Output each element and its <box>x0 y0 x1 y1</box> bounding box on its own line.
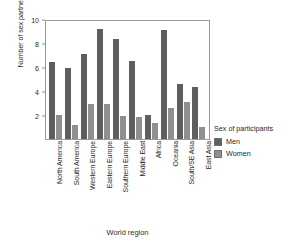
bar-women <box>72 125 78 139</box>
bar-group <box>113 21 126 139</box>
bar-women <box>104 104 110 139</box>
x-tick-label: Oceania <box>172 141 179 166</box>
bar-group <box>129 21 142 139</box>
bar-women <box>152 123 158 139</box>
bar-men <box>65 68 71 139</box>
bar-men <box>192 87 198 139</box>
y-tick-label: 6 <box>35 65 39 72</box>
bar-women <box>184 102 190 139</box>
bar-women <box>199 127 205 139</box>
bar-group <box>97 21 110 139</box>
y-tick-label: 4 <box>35 89 39 96</box>
x-axis-title: World region <box>45 228 210 237</box>
bar-men <box>145 115 151 139</box>
bar-chart: Number of sex partners desired 246810 No… <box>0 0 300 252</box>
x-tick-label: Western Europe <box>89 141 96 190</box>
x-tick-label: Middle East <box>139 141 146 176</box>
legend-item-men: Men <box>214 137 298 146</box>
legend-label: Women <box>226 149 251 158</box>
bar-group <box>161 21 174 139</box>
y-tick-label: 10 <box>31 17 39 24</box>
bar-group <box>177 21 190 139</box>
bar-men <box>129 61 135 139</box>
bar-women <box>168 108 174 139</box>
legend-title: Sex of participants <box>214 124 298 133</box>
bar-group <box>49 21 62 139</box>
bar-group <box>65 21 78 139</box>
bar-women <box>88 104 94 139</box>
legend-swatch <box>214 150 222 158</box>
legend-entries: MenWomen <box>214 137 298 158</box>
bars-container <box>46 21 209 139</box>
bar-men <box>161 30 167 139</box>
legend: Sex of participants MenWomen <box>214 124 298 161</box>
x-tick-label: South/SE Asia <box>188 141 195 184</box>
y-axis-ticks: 246810 <box>0 20 45 140</box>
bar-men <box>81 54 87 139</box>
bar-group <box>145 21 158 139</box>
y-tick-label: 8 <box>35 41 39 48</box>
bar-group <box>192 21 205 139</box>
legend-swatch <box>214 138 222 146</box>
bar-women <box>136 117 142 139</box>
x-tick-label: East Asia <box>205 141 212 169</box>
plot-area <box>45 20 210 140</box>
x-tick-label: Eastern Europe <box>106 141 113 188</box>
bar-men <box>177 84 183 139</box>
bar-women <box>120 116 126 139</box>
y-tick-label: 2 <box>35 113 39 120</box>
x-tick-label: Southern Europe <box>122 141 129 192</box>
x-tick-label: Africa <box>155 141 162 158</box>
bar-men <box>113 39 119 139</box>
bar-men <box>49 62 55 139</box>
legend-label: Men <box>226 137 240 146</box>
bar-women <box>56 115 62 139</box>
legend-item-women: Women <box>214 149 298 158</box>
x-tick-label: North America <box>56 141 63 184</box>
bar-group <box>81 21 94 139</box>
x-axis-tick-labels: North AmericaSouth AmericaWestern Europe… <box>45 141 210 221</box>
x-tick-label: South America <box>73 141 80 185</box>
bar-men <box>97 29 103 139</box>
